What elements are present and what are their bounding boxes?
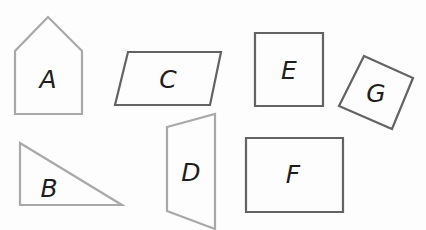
shape-g: G: [339, 56, 413, 129]
shape-c-label: C: [159, 65, 177, 94]
shape-e: E: [255, 33, 323, 106]
shape-e-label: E: [281, 56, 297, 85]
shape-a-label: A: [37, 65, 56, 94]
shape-f: F: [246, 138, 343, 212]
shape-d: D: [167, 114, 215, 229]
shape-g-label: G: [366, 79, 385, 108]
shape-a: A: [15, 17, 82, 114]
diagram-svg: A C E G B D F: [0, 0, 426, 230]
shape-b: B: [20, 143, 122, 205]
shape-b-label: B: [40, 174, 57, 203]
triangle-shape: [20, 143, 122, 205]
shape-f-label: F: [286, 160, 301, 189]
shapes-diagram: A C E G B D F: [0, 0, 426, 230]
shape-c: C: [115, 52, 221, 105]
shape-d-label: D: [181, 158, 200, 187]
